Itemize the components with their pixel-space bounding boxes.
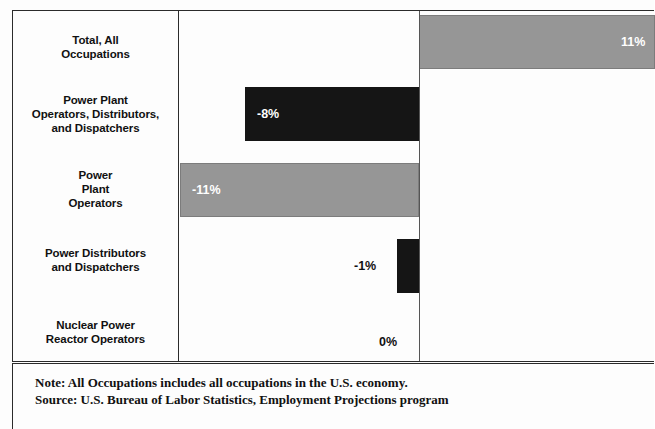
bar-label-power-distributors-and-dispatchers: -1% <box>354 260 376 273</box>
category-line-2: Operators, Distributors, <box>13 107 178 121</box>
category-label-power-plant-operators-distributors-dispatchers: Power Plant Operators, Distributors, and… <box>13 93 178 135</box>
category-line-2: and Dispatchers <box>13 260 178 274</box>
category-line-1: Nuclear Power <box>13 318 178 332</box>
category-line-1: Total, All <box>13 33 178 47</box>
zero-axis-line <box>419 11 420 361</box>
chart-frame: Total, All Occupations Power Plant Opera… <box>12 10 654 362</box>
bar-label-power-plant-operators: -11% <box>192 184 221 197</box>
category-line-2: Reactor Operators <box>13 332 178 346</box>
footer-source: Source: U.S. Bureau of Labor Statistics,… <box>35 392 449 408</box>
bar-label-power-plant-operators-distributors-dispatchers: -8% <box>257 108 279 121</box>
bar-label-nuclear-power-reactor-operators: 0% <box>379 336 397 349</box>
category-line-1: Power Distributors <box>13 246 178 260</box>
category-label-nuclear-power-reactor-operators: Nuclear Power Reactor Operators <box>13 318 178 346</box>
bar-total-all-occupations <box>419 15 655 69</box>
category-line-1: Power Plant <box>13 93 178 107</box>
chart-footer: Note: All Occupations includes all occup… <box>12 363 654 429</box>
bar-label-total-all-occupations: 11% <box>621 36 645 49</box>
category-label-column: Total, All Occupations Power Plant Opera… <box>13 11 178 361</box>
category-line-3: Operators <box>13 196 178 210</box>
category-label-total-all-occupations: Total, All Occupations <box>13 33 178 61</box>
plot-area: 11% -8% -11% -1% 0% <box>179 11 654 361</box>
category-label-power-distributors-and-dispatchers: Power Distributors and Dispatchers <box>13 246 178 274</box>
category-line-3: and Dispatchers <box>13 121 178 135</box>
bar-power-distributors-and-dispatchers <box>397 239 419 293</box>
footer-note: Note: All Occupations includes all occup… <box>35 375 408 391</box>
category-line-1: Power <box>13 168 178 182</box>
category-label-power-plant-operators: Power Plant Operators <box>13 168 178 210</box>
category-line-2: Plant <box>13 182 178 196</box>
category-line-2: Occupations <box>13 47 178 61</box>
